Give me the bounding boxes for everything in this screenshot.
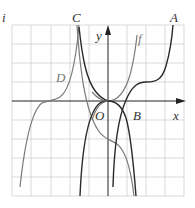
curve-c-gray-branch	[77, 25, 134, 196]
curve-c	[79, 27, 108, 101]
label-c: C	[72, 10, 81, 25]
label-origin: O	[95, 108, 105, 123]
function-graph: i C y f A D O B x	[0, 0, 195, 208]
x-axis-arrow-icon	[176, 98, 186, 104]
label-a: A	[169, 10, 178, 25]
label-x: x	[172, 108, 179, 123]
label-b: B	[133, 108, 141, 123]
label-y: y	[94, 28, 102, 43]
label-d: D	[55, 70, 66, 85]
figure-marker: i	[2, 10, 6, 25]
curve-a	[113, 25, 173, 187]
y-axis-arrow-icon	[105, 25, 111, 35]
